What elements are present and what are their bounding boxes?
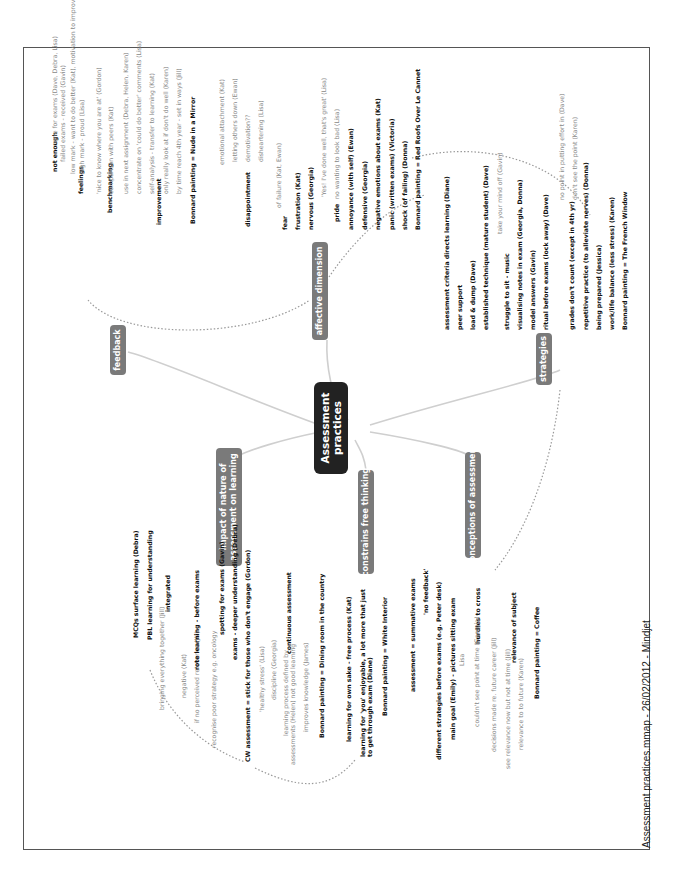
subtopic: of failure (Kat, Ewan) bbox=[275, 143, 283, 208]
subtopic: Lisa bbox=[458, 654, 466, 666]
topic-negative-emotions: negative emotions about exams (Kat) bbox=[374, 98, 382, 230]
topic-criteria: assessment criteria directs learning (Di… bbox=[443, 176, 451, 330]
subtopic: see relevance now but not at time (Jill) bbox=[504, 649, 512, 769]
subtopic: no point in putting effort in (Dave) bbox=[558, 93, 566, 200]
topic-defensive: defensive (Georgia) bbox=[361, 161, 369, 230]
subtopic: self-analysis - transfer to learning (Ka… bbox=[148, 73, 156, 194]
topic-visualising: visualising notes in exam (Georgia, Donn… bbox=[516, 179, 524, 330]
subtopic: only really look at if don't do well (Ka… bbox=[162, 67, 170, 194]
topic-no-feedback: 'no feedback' bbox=[422, 569, 430, 616]
branch-label: constrains free thinking bbox=[361, 468, 371, 576]
bonnard-affective: Bonnard painting = Red Roofs Over Le Can… bbox=[414, 69, 422, 230]
topic-summative: assessment = summative exams bbox=[409, 578, 417, 692]
central-node[interactable]: Assessmentpractices bbox=[314, 382, 348, 474]
subtopic: 'nice to know where you are at' (Gordon) bbox=[95, 67, 103, 194]
topic-panic: panic (written exams) (Victoria) bbox=[388, 119, 396, 231]
subtopic: use in next assignment (Debra, Helen, Ka… bbox=[122, 53, 130, 194]
subtopic: failed exams - received (Gavin) bbox=[59, 65, 67, 162]
subtopic: letting others down (Ewan) bbox=[231, 78, 239, 162]
subtopic: demotivation?? bbox=[244, 114, 252, 162]
topic-you-line2: to get through exam (Diane) bbox=[366, 657, 374, 757]
topic-main-goal: main goal (Emily) - pictures sitting exa… bbox=[449, 598, 457, 740]
subtopic: 'healthy stress' (Lisa) bbox=[258, 646, 266, 712]
bonnard-strategies: Bonnard painting = The French Window bbox=[621, 191, 629, 330]
topic-own-sake: learning for own sake - free process (Ka… bbox=[345, 596, 353, 742]
subtopic: concentrate on 'could do better' comment… bbox=[135, 41, 143, 194]
topic-established: established technique (mature student) (… bbox=[482, 165, 490, 330]
topic-different: different strategies before exams (e.g. … bbox=[435, 582, 443, 760]
subtopic: improves knowledge (James) bbox=[302, 642, 310, 732]
subtopic: no wanting to look bad (Lisa) bbox=[333, 109, 341, 199]
topic-frustration: frustration (Kat) bbox=[294, 173, 302, 231]
bonnard-constrains: Bonnard painting = White Interior bbox=[381, 597, 389, 716]
topic-mcqs: MCQs surface learning (Debra) bbox=[132, 530, 140, 638]
topic-deeper: exams - deeper understanding (Debra) bbox=[231, 524, 239, 660]
topic-work-life: work/life balance (less stress) (Karen) bbox=[608, 197, 616, 330]
central-node-label: Assessmentpractices bbox=[319, 393, 343, 464]
subtopic: don't see the point (Karen) bbox=[571, 117, 579, 200]
topic-continuous: continuous assessment bbox=[285, 572, 293, 654]
topic-relevance-subject: relevance of subject bbox=[510, 592, 518, 663]
topic-grades: grades don't count (except in 4th yr) bbox=[568, 201, 576, 330]
branch-node-constrains[interactable]: constrains free thinking bbox=[358, 470, 374, 574]
topic-ritual: ritual before exams (lock away) (Dave) bbox=[542, 194, 550, 330]
topic-shock: shock (of failing) (Donna) bbox=[401, 141, 409, 230]
subtopic: assessments (Helen) not good learning bbox=[289, 644, 297, 765]
subtopic: negative (Kat) bbox=[180, 654, 188, 698]
branch-node-strategies[interactable]: strategies bbox=[536, 333, 552, 385]
branch-node-affective[interactable]: affective dimension bbox=[312, 242, 328, 340]
branch-label: strategies bbox=[539, 336, 549, 382]
branch-label: feedback bbox=[113, 329, 123, 370]
topic-struggle: struggle to sit - music bbox=[503, 253, 511, 330]
subtopic: relevance to to future (Karen) bbox=[517, 658, 525, 750]
branch-label: conceptions of assessment bbox=[468, 444, 478, 566]
topic-repetitive: repetitive practice (to alleviate nerves… bbox=[582, 162, 590, 330]
bonnard-conceptions: Bonnard painting = Coffee bbox=[533, 607, 541, 699]
subtopic: decisions made re. future career (Jill) bbox=[490, 637, 498, 752]
topic-nervous: nervous (Georgia) bbox=[307, 167, 315, 230]
topic-integrated: integrated bbox=[164, 575, 172, 612]
topic-annoyance: annoyance (with self) (Ewan) bbox=[347, 128, 355, 230]
branch-node-feedback[interactable]: feedback bbox=[110, 325, 126, 375]
topic-load-dump: load & dump (Dave) bbox=[469, 260, 477, 330]
topic-spotting: spotting for exams (Gavin) bbox=[218, 541, 226, 635]
subtopic: by time reach 4th year - set in ways (Ji… bbox=[175, 68, 183, 194]
topic-peer-support: peer support bbox=[456, 285, 464, 330]
bonnard-impact: Bonnard painting = Dining room in the co… bbox=[318, 574, 326, 738]
subtopic: none for exams (Dave, Debra, Lisa) bbox=[51, 36, 59, 146]
subtopic: bringing everything together (Jill) bbox=[158, 607, 166, 710]
branch-label: affective dimension bbox=[315, 247, 325, 336]
bonnard-feedback: Bonnard painting = Nude in a Mirror bbox=[189, 97, 197, 224]
subtopic: 'Yes! I've done well, that's great' (Lis… bbox=[320, 78, 328, 197]
topic-pbl: PBL learning for understanding bbox=[146, 530, 154, 640]
subtopic: recognise poor strategy e.g. oncology bbox=[210, 631, 218, 748]
topic-prepared: being prepared (Jessica) bbox=[595, 245, 603, 330]
subtopic: low mark - want to do better (Kat), moti… bbox=[69, 0, 77, 174]
topic-pride: pride bbox=[333, 204, 341, 222]
subtopic: discipline (Georgia) bbox=[270, 640, 278, 700]
subtopic: disheartening (Lisa) bbox=[257, 100, 265, 162]
subtopic: couldn't see point at time (Georgia) bbox=[473, 616, 481, 727]
branch-node-conceptions[interactable]: conceptions of assessment bbox=[465, 452, 481, 558]
subtopic: emotional attachment (Kat) bbox=[218, 79, 226, 165]
topic-disappointment: disappointment bbox=[244, 172, 252, 227]
subtopic: high mark - proud (Lisa) bbox=[78, 99, 86, 174]
subtopic: take your mind off (Gavin) bbox=[496, 152, 504, 234]
subtopic: comparison with peers (Kat) bbox=[107, 107, 115, 194]
topic-cw-assessment: CW assessment = stick for those who don'… bbox=[244, 550, 252, 762]
topic-fear: fear bbox=[281, 216, 289, 230]
footer-caption: Assessment practices.mmap - 26/02/2012 -… bbox=[641, 620, 652, 848]
topic-model-answers: model answers (Gavin) bbox=[529, 250, 537, 330]
topic-rote: rote learning - before exams bbox=[193, 570, 201, 670]
